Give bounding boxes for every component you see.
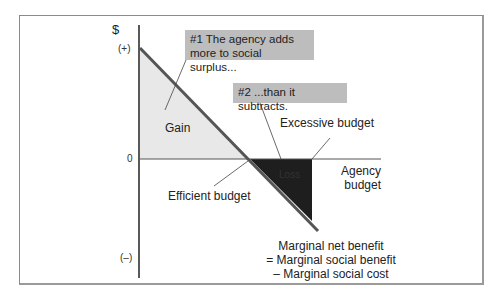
gain-label: Gain [165, 121, 190, 135]
efficient-budget-leader [214, 161, 248, 186]
loss-label: Loss [279, 168, 300, 182]
efficient-budget-label: Efficient budget [168, 189, 251, 203]
callout-1: #1 The agency adds more to social surplu… [185, 30, 314, 60]
y-tick-zero: 0 [127, 152, 133, 166]
y-tick-minus: (–) [120, 251, 132, 265]
y-axis-title: $ [112, 23, 119, 37]
excessive-budget-label: Excessive budget [280, 116, 374, 130]
y-tick-plus: (+) [118, 42, 131, 56]
x-axis-title: Agency budget [330, 164, 381, 192]
callout-2: #2 ...than it subtracts. [233, 83, 347, 103]
excessive-budget-leader [312, 138, 330, 159]
curve-label: Marginal net benefit = Marginal social b… [256, 239, 406, 281]
